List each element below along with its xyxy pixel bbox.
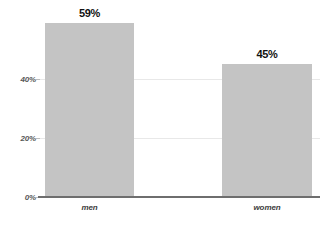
bar-men — [45, 23, 134, 197]
category-label-women: women — [222, 203, 312, 213]
x-axis-baseline — [38, 196, 320, 198]
y-tick-label-20: 20% — [2, 134, 36, 143]
bar-women — [222, 64, 312, 197]
bar-chart: 40% 20% 0% 59% 45% men women — [0, 0, 335, 227]
y-tick-label-0: 0% — [2, 193, 36, 202]
bar-series — [38, 14, 320, 197]
y-axis: 40% 20% 0% — [0, 14, 36, 197]
y-tick-label-40: 40% — [2, 75, 36, 84]
data-label-men: 59% — [45, 7, 134, 19]
data-label-women: 45% — [222, 48, 312, 60]
category-label-men: men — [45, 203, 134, 213]
